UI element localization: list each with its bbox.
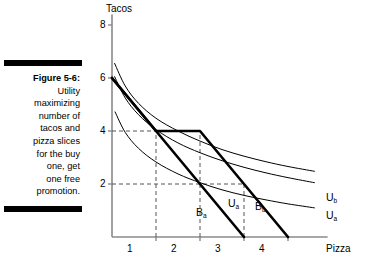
caption-line-4: pizza slices — [33, 136, 80, 146]
plot-area: Tacos Pizza 8 6 4 2 1 2 3 4 Ba Ua Bb Ub … — [86, 0, 367, 268]
caption-line-7: one free — [46, 174, 80, 184]
caption-line-6: one, get — [47, 161, 80, 171]
caption-text: Figure 5-6: Utility maximizing number of… — [0, 66, 86, 202]
caption-block: Figure 5-6: Utility maximizing number of… — [0, 60, 86, 212]
chart-svg — [86, 0, 367, 268]
figure-number: Figure 5-6: — [33, 73, 80, 83]
caption-line-2: number of — [39, 111, 80, 121]
data-curves — [112, 63, 314, 237]
caption-line-0: Utility — [58, 86, 80, 96]
guide-lines — [112, 131, 244, 237]
caption-line-8: promotion. — [37, 186, 80, 196]
axis-ticks — [108, 25, 288, 241]
figure-container: Figure 5-6: Utility maximizing number of… — [0, 0, 367, 268]
caption-line-1: maximizing — [34, 98, 80, 108]
caption-line-3: tacos and — [40, 123, 80, 133]
caption-rule-bottom — [4, 206, 82, 212]
caption-line-5: for the buy — [37, 149, 80, 159]
